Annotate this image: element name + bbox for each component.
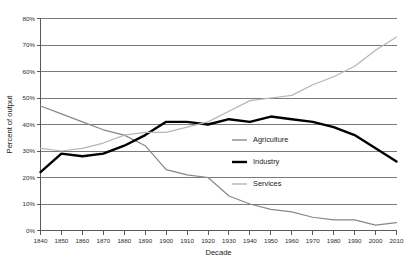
- legend-label-industry: Industry: [253, 157, 280, 166]
- x-tick-label: 2010: [390, 237, 404, 244]
- line-chart: 0%10%20%30%40%50%60%70%80%18401850186018…: [0, 0, 408, 267]
- x-tick-label: 1960: [285, 237, 299, 244]
- x-tick-label: 1910: [180, 237, 194, 244]
- series-line-services: [41, 37, 397, 151]
- x-tick-label: 1840: [34, 237, 48, 244]
- legend-label-agriculture: Agriculture: [253, 135, 288, 144]
- y-tick-label: 60%: [23, 68, 36, 75]
- y-tick-label: 10%: [23, 200, 36, 207]
- y-tick-label: 70%: [23, 41, 36, 48]
- x-tick-label: 1870: [96, 237, 110, 244]
- y-tick-label: 20%: [23, 174, 36, 181]
- x-axis-title: Decade: [205, 248, 231, 257]
- x-tick-label: 2000: [369, 237, 383, 244]
- x-tick-label: 1880: [117, 237, 131, 244]
- x-tick-label: 1850: [55, 237, 69, 244]
- legend-label-services: Services: [253, 179, 282, 188]
- series-line-agriculture: [41, 106, 397, 225]
- x-tick-label: 1930: [222, 237, 236, 244]
- x-tick-label: 1980: [327, 237, 341, 244]
- y-tick-label: 50%: [23, 94, 36, 101]
- x-tick-label: 1890: [138, 237, 152, 244]
- y-axis-title: Percent of output: [5, 95, 14, 154]
- x-tick-label: 1920: [201, 237, 215, 244]
- y-tick-label: 0%: [26, 227, 35, 234]
- x-tick-label: 1860: [75, 237, 89, 244]
- y-tick-label: 30%: [23, 147, 36, 154]
- x-tick-label: 1970: [306, 237, 320, 244]
- y-tick-label: 80%: [23, 15, 36, 22]
- x-tick-label: 1990: [348, 237, 362, 244]
- x-tick-label: 1940: [243, 237, 257, 244]
- y-tick-label: 40%: [23, 121, 36, 128]
- x-tick-label: 1950: [264, 237, 278, 244]
- chart-container: 0%10%20%30%40%50%60%70%80%18401850186018…: [0, 0, 408, 267]
- x-tick-label: 1900: [159, 237, 173, 244]
